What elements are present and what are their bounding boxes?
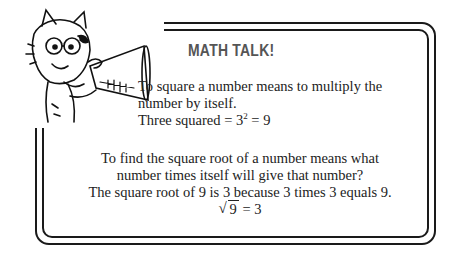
page-title: MATH TALK! xyxy=(188,41,274,61)
root-line-3: The square root of 9 is 3 because 3 time… xyxy=(50,184,430,201)
radical-sign: √9 xyxy=(219,201,239,218)
square-root-definition: To find the square root of a number mean… xyxy=(50,150,430,218)
radical-icon: √ xyxy=(219,200,227,217)
root-line-2: number times itself will give that numbe… xyxy=(50,167,430,184)
root-line-1: To find the square root of a number mean… xyxy=(50,150,430,167)
root-equation: √9 = 3 xyxy=(50,201,430,218)
square-line-2: number by itself. xyxy=(138,95,382,112)
square-line-3: Three squared = 32 = 9 xyxy=(138,112,382,129)
cat-megaphone-illustration xyxy=(4,4,154,124)
square-line-1: To square a number means to multiply the xyxy=(138,78,382,95)
square-definition: To square a number means to multiply the… xyxy=(138,78,382,129)
